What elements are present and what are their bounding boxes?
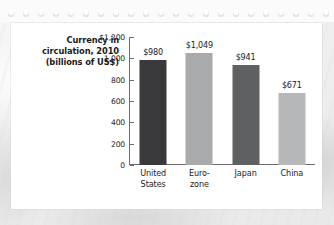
x-axis-category-label-line: China	[281, 168, 304, 179]
y-axis-tick-label: 800	[111, 75, 125, 84]
y-axis-tick-mark	[130, 165, 134, 166]
screenshot-root: Currency in circulation, 2010 (billions …	[0, 0, 334, 225]
bar-value-label: $980	[143, 47, 163, 57]
y-axis-tick-label: 1,000	[104, 54, 125, 63]
bar[interactable]: $941	[232, 65, 259, 165]
chart-card: Currency in circulation, 2010 (billions …	[11, 23, 322, 209]
bar-slot: $941Japan	[223, 37, 269, 165]
bar-chart-plot-area: $1,2001,0008006004002000 $980UnitedState…	[129, 37, 315, 187]
x-axis-category-label-line: United	[140, 168, 166, 179]
x-axis-category-label: Japan	[235, 168, 257, 179]
bars-container: $980UnitedStates$1,049Euro-zone$941Japan…	[130, 37, 315, 165]
x-axis-category-label-line: States	[140, 179, 166, 190]
x-axis-category-label: UnitedStates	[140, 168, 166, 189]
y-axis-tick-label: 400	[111, 118, 125, 127]
bar-slot: $671China	[269, 37, 315, 165]
bar[interactable]: $1,049	[186, 53, 213, 165]
y-axis-tick-label: 200	[111, 139, 125, 148]
perforated-edge-icon	[0, 0, 334, 22]
x-axis-category-label-line: Japan	[235, 168, 257, 179]
x-axis-category-label: China	[281, 168, 304, 179]
bar-value-label: $941	[236, 52, 256, 62]
y-axis-tick-label: 0	[120, 161, 125, 170]
bar-slot: $1,049Euro-zone	[176, 37, 222, 165]
y-axis-tick-label: 600	[111, 97, 125, 106]
bar-slot: $980UnitedStates	[130, 37, 176, 165]
bar[interactable]: $980	[140, 60, 167, 165]
x-axis-category-label: Euro-zone	[189, 168, 210, 189]
x-axis-category-label-line: Euro-	[189, 168, 210, 179]
x-axis-category-label-line: zone	[189, 179, 210, 190]
bar-value-label: $671	[282, 80, 302, 90]
y-axis-tick-label: $1,200	[99, 33, 125, 42]
bar-value-label: $1,049	[186, 40, 213, 50]
bar[interactable]: $671	[278, 93, 305, 165]
